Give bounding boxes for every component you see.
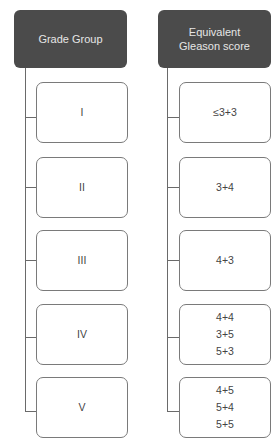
gleason-score-label: 4+4 (216, 309, 234, 326)
gleason-score-box-3: 4+3 (179, 230, 271, 291)
connector-grade-1 (25, 117, 36, 118)
gleason-score-box-4: 4+4 3+5 5+3 (179, 304, 271, 365)
connector-gleason-5 (167, 411, 179, 412)
grade-group-box-1: I (36, 82, 128, 143)
grade-group-label: II (79, 179, 85, 196)
header-text-line-2: Gleason score (179, 39, 250, 53)
connector-gleason-4 (167, 337, 179, 338)
gleason-score-trunk-line (167, 68, 168, 412)
header-text-line-1: Equivalent (189, 25, 240, 39)
grade-group-trunk-line (25, 68, 26, 412)
grade-group-box-2: II (36, 157, 128, 218)
grade-group-header: Grade Group (14, 10, 127, 68)
connector-gleason-3 (167, 260, 179, 261)
gleason-score-box-1: ≤3+3 (179, 82, 271, 143)
header-text: Grade Group (38, 32, 102, 46)
gleason-score-label: ≤3+3 (213, 104, 237, 121)
gleason-score-label: 5+4 (216, 399, 234, 416)
connector-grade-2 (25, 187, 36, 188)
connector-gleason-2 (167, 187, 179, 188)
connector-grade-4 (25, 337, 36, 338)
grade-group-box-4: IV (36, 304, 128, 365)
gleason-score-label: 5+3 (216, 343, 234, 360)
gleason-score-header: Equivalent Gleason score (158, 10, 271, 68)
gleason-score-label: 3+5 (216, 326, 234, 343)
grade-group-label: IV (77, 326, 87, 343)
gleason-score-label: 4+3 (216, 252, 234, 269)
gleason-score-label: 3+4 (216, 179, 234, 196)
connector-grade-5 (25, 411, 36, 412)
grade-group-label: III (78, 252, 87, 269)
connector-grade-3 (25, 260, 36, 261)
grade-group-label: V (78, 399, 85, 416)
grade-group-box-3: III (36, 230, 128, 291)
grade-group-box-5: V (36, 377, 128, 438)
grade-group-label: I (81, 104, 84, 121)
gleason-score-label: 4+5 (216, 382, 234, 399)
gleason-score-label: 5+5 (216, 416, 234, 433)
gleason-score-box-5: 4+5 5+4 5+5 (179, 377, 271, 438)
connector-gleason-1 (167, 117, 179, 118)
gleason-score-box-2: 3+4 (179, 157, 271, 218)
